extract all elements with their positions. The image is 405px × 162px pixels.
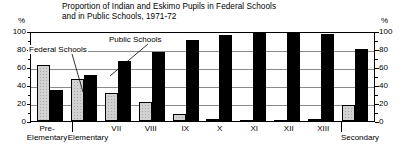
bar-group bbox=[338, 33, 372, 121]
bar-public bbox=[186, 40, 199, 121]
y-axis-minor-tick bbox=[375, 41, 378, 42]
y-axis-tick-label: 80 bbox=[4, 46, 26, 54]
bar-public bbox=[355, 49, 368, 121]
y-axis-tick-label: 40 bbox=[4, 82, 26, 90]
bar-group bbox=[101, 33, 135, 121]
bar-group bbox=[203, 33, 237, 121]
bar-public bbox=[253, 33, 266, 121]
x-axis-tick-label: XI bbox=[237, 124, 272, 136]
y-axis-tick bbox=[27, 68, 31, 69]
y-axis-tick-label: 0 bbox=[4, 118, 26, 126]
y-axis-tick bbox=[27, 32, 31, 33]
y-axis-tick-label: 60 bbox=[379, 64, 388, 72]
cat-label-elementary: Elementary bbox=[58, 133, 118, 142]
chart-figure: Proportion of Indian and Eskimo Pupils i… bbox=[0, 0, 405, 162]
bar-federal bbox=[105, 93, 118, 121]
bar-public bbox=[219, 35, 232, 121]
y-axis-tick-label: 80 bbox=[379, 46, 388, 54]
bar-federal bbox=[139, 102, 152, 121]
y-axis-tick bbox=[375, 86, 379, 87]
bar-federal bbox=[342, 105, 355, 121]
x-axis-tick-label: XII bbox=[272, 124, 307, 136]
y-axis-minor-tick bbox=[375, 59, 378, 60]
y-axis-tick bbox=[375, 68, 379, 69]
bar-public bbox=[118, 61, 131, 121]
y-axis-tick bbox=[375, 122, 379, 123]
x-axis-tick-label: X bbox=[203, 124, 238, 136]
bar-group bbox=[135, 33, 169, 121]
y-axis-tick-label: 60 bbox=[4, 64, 26, 72]
bar-public bbox=[287, 33, 300, 121]
y-axis-tick bbox=[27, 122, 31, 123]
y-axis-minor-tick bbox=[28, 95, 31, 96]
bar-group bbox=[169, 33, 203, 121]
bar-group bbox=[270, 33, 304, 121]
y-axis-tick bbox=[375, 104, 379, 105]
y-axis-minor-tick bbox=[28, 113, 31, 114]
x-axis-tick-label: VIII bbox=[134, 124, 169, 136]
chart-title: Proportion of Indian and Eskimo Pupils i… bbox=[62, 2, 362, 22]
y-axis-tick bbox=[375, 32, 379, 33]
bar-public bbox=[321, 34, 334, 121]
y-axis-tick-label: 40 bbox=[379, 82, 388, 90]
y-axis-tick bbox=[27, 86, 31, 87]
y-axis-minor-tick bbox=[375, 95, 378, 96]
cat-label-pre-elementary-line1: Pre- bbox=[30, 124, 64, 133]
y-axis-minor-tick bbox=[375, 113, 378, 114]
axis-separator-2 bbox=[341, 122, 342, 132]
y-axis-tick-label: 100 bbox=[379, 28, 392, 36]
chart-title-line1: Proportion of Indian and Eskimo Pupils i… bbox=[62, 2, 362, 12]
bar-federal bbox=[206, 119, 219, 121]
bar-federal bbox=[37, 65, 50, 121]
y-axis-unit-left: % bbox=[18, 16, 25, 25]
bar-federal bbox=[71, 79, 84, 121]
bar-public bbox=[84, 75, 97, 121]
y-axis-tick bbox=[27, 104, 31, 105]
y-axis-minor-tick bbox=[28, 77, 31, 78]
y-axis-tick-label: 20 bbox=[379, 100, 388, 108]
bar-public bbox=[50, 90, 63, 121]
y-axis-tick-label: 100 bbox=[4, 28, 26, 36]
y-axis-minor-tick bbox=[375, 77, 378, 78]
bar-public bbox=[152, 52, 165, 121]
bar-federal bbox=[240, 120, 253, 121]
y-axis-tick-label: 0 bbox=[379, 118, 383, 126]
y-axis-minor-tick bbox=[28, 41, 31, 42]
annotation-public-schools: Public Schools bbox=[108, 35, 162, 44]
chart-title-line2: and in Public Schools, 1971-72 bbox=[62, 12, 362, 22]
bar-group bbox=[236, 33, 270, 121]
y-axis-minor-tick bbox=[28, 59, 31, 60]
annotation-federal-schools: Federal Schools bbox=[28, 45, 88, 54]
bar-group bbox=[304, 33, 338, 121]
y-axis-unit-right: % bbox=[381, 16, 388, 25]
bar-federal bbox=[274, 120, 287, 121]
axis-separator-1 bbox=[72, 122, 73, 132]
bar-federal bbox=[308, 119, 321, 121]
x-axis-tick-label: IX bbox=[168, 124, 203, 136]
y-axis-tick bbox=[375, 50, 379, 51]
y-axis-tick-label: 20 bbox=[4, 100, 26, 108]
cat-label-secondary: Secondary bbox=[330, 133, 390, 142]
bar-federal bbox=[173, 114, 186, 121]
